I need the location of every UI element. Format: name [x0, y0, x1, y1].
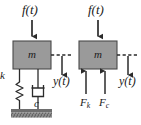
left-force-label: f(t): [22, 3, 38, 16]
right-mass-label: m: [94, 49, 102, 60]
damping-coefficient-label: c: [34, 98, 39, 109]
spring-constant-label: k: [0, 70, 5, 81]
spring-force-symbol: F: [80, 96, 87, 108]
diagram-vector-layer: [0, 0, 141, 125]
damper-force-label: Fc: [99, 97, 109, 109]
left-mass-label: m: [28, 49, 36, 60]
mass-spring-damper-figure: f(t) m y(t) k c f(t) m y(t) Fk Fc: [0, 0, 141, 125]
left-displacement-label: y(t): [53, 75, 70, 87]
left-ground-support: [11, 109, 52, 118]
spring-force-subscript: k: [87, 101, 90, 110]
damper-force-subscript: c: [106, 101, 109, 110]
spring-force-label: Fk: [80, 97, 90, 109]
right-displacement-label: y(t): [119, 75, 136, 87]
left-spring: [16, 69, 23, 110]
damper-force-symbol: F: [99, 96, 106, 108]
right-force-label: f(t): [88, 3, 104, 16]
